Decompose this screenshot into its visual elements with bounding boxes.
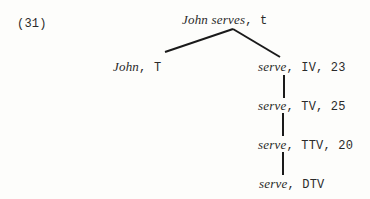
node-expr: serve [259, 176, 287, 191]
node-expr: serve [258, 59, 286, 74]
node-expr: John serves [182, 12, 245, 27]
node-cat: , IV, 23 [286, 61, 345, 75]
node-expr: John [113, 59, 139, 74]
node-left: John, T [113, 60, 161, 75]
node-cat: , TV, 25 [286, 100, 345, 114]
edge-root-right [233, 29, 280, 57]
node-cat: , T [139, 61, 161, 75]
node-expr: serve [258, 98, 286, 113]
node-cat: , TTV, 20 [286, 139, 353, 153]
node-cat: , t [245, 14, 267, 28]
example-number: (31) [17, 17, 47, 31]
node-serve-tv: serve, TV, 25 [258, 99, 346, 114]
node-cat: , DTV [287, 178, 324, 192]
node-serve-ttv: serve, TTV, 20 [258, 138, 353, 153]
node-root: John serves, t [182, 13, 267, 28]
edge-root-left [165, 29, 233, 52]
node-serve-dtv: serve, DTV [259, 177, 324, 192]
node-expr: serve [258, 137, 286, 152]
node-serve-iv: serve, IV, 23 [258, 60, 346, 75]
